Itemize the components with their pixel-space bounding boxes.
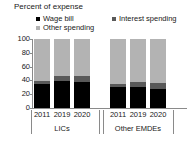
bar-segment	[110, 39, 126, 84]
x-axis-group-label: Other EMDEs	[98, 124, 178, 134]
bar-stack	[54, 39, 70, 108]
chart-legend: Wage bill Interest spending Other spendi…	[36, 14, 188, 34]
bar-stack	[130, 39, 146, 108]
y-axis-line	[32, 39, 33, 109]
bar-segment	[130, 39, 146, 82]
bar-segment	[150, 89, 166, 108]
y-axis-tick-mark	[30, 94, 33, 95]
x-axis-labels: 201120192020201120192020	[33, 110, 187, 121]
group-separator	[173, 110, 174, 134]
bar-segment	[54, 39, 70, 76]
bar-segment	[54, 81, 70, 108]
y-axis-tick-label: 40	[22, 76, 30, 84]
y-axis-tick-mark	[30, 53, 33, 54]
x-axis-tick-label: 2020	[145, 110, 171, 120]
group-separator	[31, 110, 32, 134]
legend-item-interest-spending: Interest spending	[112, 14, 177, 23]
y-axis-tick-mark	[30, 80, 33, 81]
x-axis-line	[33, 108, 187, 109]
legend-swatch-wage-bill	[36, 17, 40, 21]
y-axis-tick-mark	[30, 39, 33, 40]
y-axis-tick-mark	[30, 108, 33, 109]
chart-title: Percent of expense	[14, 2, 83, 12]
y-axis-tick-label: 80	[22, 49, 30, 57]
y-axis-tick-label: 20	[22, 90, 30, 98]
bar-segment	[74, 82, 90, 108]
y-axis-tick-mark	[30, 67, 33, 68]
legend-swatch-other-spending	[36, 26, 40, 30]
group-separator	[103, 110, 104, 134]
legend-item-wage-bill: Wage bill	[36, 14, 74, 23]
bar-segment	[34, 84, 50, 108]
legend-label-interest-spending: Interest spending	[119, 14, 177, 23]
bar-segment	[110, 87, 126, 108]
x-axis-group-label: LICs	[22, 124, 102, 134]
plot-area: 100806040200	[33, 39, 187, 108]
legend-label-other-spending: Other spending	[43, 23, 94, 32]
bar-segment	[74, 39, 90, 76]
legend-item-other-spending: Other spending	[36, 23, 94, 32]
legend-label-wage-bill: Wage bill	[43, 14, 74, 23]
chart-figure: Percent of expense Wage bill Interest sp…	[0, 0, 190, 144]
bar-stack	[110, 39, 126, 108]
y-axis-tick-label: 60	[22, 63, 30, 71]
x-axis-tick-label: 2020	[69, 110, 95, 120]
y-axis-tick-label: 100	[17, 35, 30, 43]
bar-segment	[130, 87, 146, 108]
x-axis-group-labels: LICsOther EMDEs	[33, 124, 187, 136]
bar-stack	[150, 39, 166, 108]
bar-stack	[34, 39, 50, 108]
bar-segment	[34, 39, 50, 81]
bar-segment	[150, 39, 166, 83]
group-separator	[99, 110, 100, 134]
bar-stack	[74, 39, 90, 108]
legend-swatch-interest-spending	[112, 17, 116, 21]
